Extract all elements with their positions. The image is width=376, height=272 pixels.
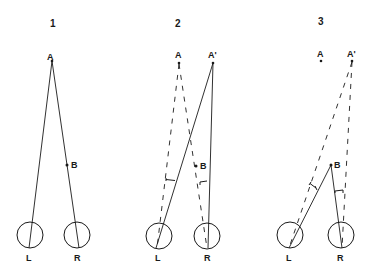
point-a-label: A	[317, 49, 324, 59]
left-eye	[17, 222, 43, 248]
point-b-label: B	[334, 160, 341, 170]
left-eye	[277, 222, 303, 248]
panel-3: 3 A A' B L R	[277, 16, 356, 263]
point-a-prime-label: A'	[208, 50, 217, 60]
panel-number: 3	[318, 16, 324, 27]
left-eye-label: L	[26, 253, 32, 263]
panel-number: 1	[50, 18, 56, 29]
sight-line-left	[29, 61, 52, 248]
right-eye	[194, 223, 220, 249]
angle-marker-left	[166, 178, 175, 181]
point-a-label: A	[175, 50, 182, 60]
panel-1: 1 A B L R	[17, 18, 90, 263]
binocular-diagram: 1 A B L R 2 A A' B L R 3 A	[0, 0, 376, 272]
dashed-line-a-left	[157, 64, 179, 248]
angle-marker-left	[309, 182, 317, 190]
right-eye	[328, 222, 354, 248]
point-b-label: B	[200, 161, 207, 171]
point-b	[195, 165, 198, 168]
point-b-label: B	[71, 160, 78, 170]
dashed-line-a-prime-right	[342, 62, 352, 248]
panel-2: 2 A A' B L R	[146, 18, 220, 263]
right-eye-label: R	[74, 253, 81, 263]
point-a	[178, 62, 181, 65]
point-b	[330, 164, 333, 167]
sight-line-right	[52, 61, 79, 248]
point-b	[66, 164, 69, 167]
panel-number: 2	[175, 18, 181, 29]
dashed-line-a-prime-left	[289, 62, 352, 248]
left-eye-label: L	[155, 253, 161, 263]
dashed-line-a-right	[179, 64, 207, 248]
right-eye-label: R	[204, 253, 211, 263]
point-a-prime	[351, 60, 354, 63]
sight-line-a-prime-left	[156, 63, 213, 248]
sight-line-b-left	[289, 165, 331, 248]
sight-line-a-prime-right	[208, 63, 213, 248]
left-eye-label: L	[286, 253, 292, 263]
point-a	[320, 60, 323, 63]
angle-marker-right	[200, 181, 207, 185]
left-eye	[146, 223, 172, 249]
point-a-prime-label: A'	[347, 49, 356, 59]
right-eye-label: R	[337, 253, 344, 263]
angle-marker-right	[335, 190, 343, 193]
sight-line-b-right	[331, 165, 342, 248]
